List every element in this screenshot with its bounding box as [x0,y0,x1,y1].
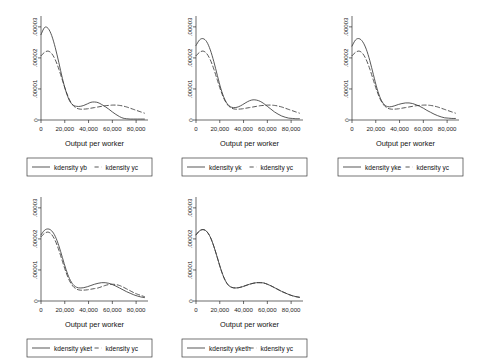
density-curve-2 [196,230,299,298]
x-axis-title: Output per worker [220,139,280,148]
kdensity-panel-3: 0.00001.00002.00003020,00040,00060,00080… [311,0,470,181]
legend-label-1: kdensity yketh [209,345,251,353]
x-tick-label: 80,000 [127,306,146,313]
legend-label-1: kdensity yket [54,345,92,353]
x-tick-label: 40,000 [79,306,98,313]
legend-label-1: kdensity yb [54,164,87,172]
y-tick-label: .00002 [343,48,350,67]
x-tick-label: 20,000 [55,125,74,132]
x-tick-label: 40,000 [234,306,253,313]
y-tick-label: .00002 [32,48,39,67]
y-tick-label: .00003 [187,198,194,217]
y-tick-label: .00003 [32,198,39,217]
x-axis-title: Output per worker [65,320,125,329]
x-tick-label: 40,000 [79,125,98,132]
y-tick-label: .00003 [343,17,350,36]
y-tick-label: .00002 [187,48,194,67]
x-tick-label: 0 [39,125,43,132]
y-tick-label: 0 [32,118,39,122]
plot-area-5: 0.00001.00002.00003020,00040,00060,00080… [155,181,314,362]
kdensity-panel-5: 0.00001.00002.00003020,00040,00060,00080… [155,181,314,362]
x-tick-label: 0 [194,125,198,132]
x-axis-title: Output per worker [65,139,125,148]
legend-label-1: kdensity yk [209,164,242,172]
y-tick-label: .00001 [187,260,194,279]
y-tick-label: 0 [343,118,350,122]
y-tick-label: .00003 [187,17,194,36]
y-tick-label: .00002 [187,229,194,248]
y-tick-label: .00001 [32,79,39,98]
x-tick-label: 0 [350,125,354,132]
x-tick-label: 80,000 [282,125,301,132]
x-tick-label: 20,000 [210,125,229,132]
x-tick-label: 80,000 [282,306,301,313]
plot-area-1: 0.00001.00002.00003020,00040,00060,00080… [0,0,159,181]
legend-label-2: kdensity yc [261,345,294,353]
density-curve-1 [352,39,455,119]
density-curve-1 [41,229,144,298]
x-tick-label: 80,000 [438,125,457,132]
x-tick-label: 60,000 [258,125,277,132]
plot-area-4: 0.00001.00002.00003020,00040,00060,00080… [0,181,159,362]
legend-label-2: kdensity yc [417,164,450,172]
legend-label-2: kdensity yc [106,164,139,172]
y-tick-label: 0 [187,299,194,303]
x-tick-label: 0 [39,306,43,313]
density-curve-2 [41,232,144,297]
x-tick-label: 60,000 [103,125,122,132]
density-curve-1 [41,27,144,119]
x-tick-label: 60,000 [414,125,433,132]
plot-area-2: 0.00001.00002.00003020,00040,00060,00080… [155,0,314,181]
legend-label-1: kdensity yke [365,164,402,172]
y-tick-label: .00001 [343,79,350,98]
density-curve-2 [196,51,299,113]
density-curve-2 [352,51,455,113]
y-tick-label: .00001 [187,79,194,98]
kdensity-panel-1: 0.00001.00002.00003020,00040,00060,00080… [0,0,159,181]
x-tick-label: 40,000 [234,125,253,132]
kdensity-panel-4: 0.00001.00002.00003020,00040,00060,00080… [0,181,159,362]
legend-label-2: kdensity yc [106,345,139,353]
kdensity-panel-2: 0.00001.00002.00003020,00040,00060,00080… [155,0,314,181]
y-tick-label: 0 [187,118,194,122]
legend-label-2: kdensity yc [261,164,294,172]
plot-area-3: 0.00001.00002.00003020,00040,00060,00080… [311,0,470,181]
x-tick-label: 20,000 [366,125,385,132]
x-tick-label: 0 [194,306,198,313]
x-tick-label: 60,000 [103,306,122,313]
density-curve-2 [41,51,144,113]
x-axis-title: Output per worker [376,139,436,148]
y-tick-label: .00002 [32,229,39,248]
x-axis-title: Output per worker [220,320,280,329]
x-tick-label: 60,000 [258,306,277,313]
y-tick-label: .00003 [32,17,39,36]
density-curve-1 [196,39,299,119]
x-tick-label: 20,000 [210,306,229,313]
y-tick-label: .00001 [32,260,39,279]
kdensity-panel-grid: 0.00001.00002.00003020,00040,00060,00080… [0,0,477,362]
x-tick-label: 40,000 [390,125,409,132]
y-tick-label: 0 [32,299,39,303]
x-tick-label: 20,000 [55,306,74,313]
x-tick-label: 80,000 [127,125,146,132]
